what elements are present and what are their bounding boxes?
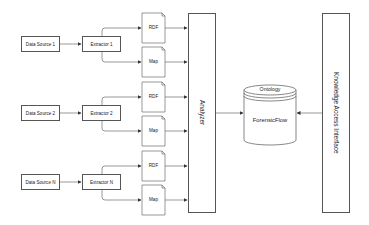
diagram-canvas: Data Source 1 Data Source 2 Data Source … (0, 0, 369, 225)
ontology-label: Ontology (244, 86, 296, 92)
data-source-n: Data Source N (21, 174, 60, 190)
rdf-document-1: RDF (142, 25, 165, 30)
extractor-1: Extractor 1 (82, 36, 121, 52)
document-shapes (142, 13, 165, 215)
rdf-document-2: RDF (142, 94, 165, 99)
extractor-n: Extractor N (82, 174, 121, 190)
analyzer-box: Analyzer (188, 13, 216, 213)
extractor-2: Extractor 2 (82, 105, 121, 121)
knowledge-access-interface-label: Knowledge Access Interface (333, 72, 340, 154)
database-cylinder-shape (244, 85, 296, 145)
knowledge-access-interface-box: Knowledge Access Interface (322, 13, 350, 213)
map-document-n: Map (142, 197, 165, 202)
rdf-document-n: RDF (142, 163, 165, 168)
data-source-2: Data Source 2 (21, 105, 60, 121)
data-source-1: Data Source 1 (21, 36, 60, 52)
map-document-2: Map (142, 128, 165, 133)
map-document-1: Map (142, 59, 165, 64)
analyzer-label: Analyzer (199, 100, 206, 125)
forensicflow-label: ForensicFlow (244, 117, 296, 123)
